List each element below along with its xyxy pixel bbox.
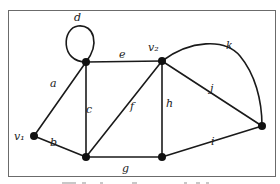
edge-label-j: j — [207, 82, 214, 95]
edge-label-h: h — [166, 97, 173, 110]
caption-cutoff — [62, 182, 209, 184]
edge-label-g: g — [122, 162, 129, 175]
vertex-v1 — [30, 132, 38, 140]
vertex-right — [258, 122, 266, 130]
graph-diagram: v₁ v₂ a b c d e f g h i j k — [0, 0, 280, 184]
edge-label-i: i — [211, 135, 215, 148]
vertex-bottom-middle — [158, 153, 166, 161]
vertex-label-v2: v₂ — [148, 41, 159, 54]
diagram-frame — [9, 11, 276, 177]
vertex-label-v1: v₁ — [14, 130, 25, 143]
edge-label-d: d — [74, 11, 81, 24]
edge-a — [34, 62, 86, 136]
edge-e — [86, 61, 162, 62]
edge-b — [34, 136, 86, 157]
edge-label-a: a — [50, 77, 57, 90]
labels: v₁ v₂ a b c d e f g h i j k — [14, 11, 233, 175]
vertex-top-left — [82, 58, 90, 66]
edge-label-c: c — [86, 103, 92, 116]
edge-d-loop — [66, 26, 94, 62]
edge-f — [86, 61, 162, 157]
vertex-bottom-left — [82, 153, 90, 161]
edge-label-b: b — [50, 136, 57, 149]
edge-label-k: k — [226, 39, 233, 52]
edge-label-e: e — [119, 48, 126, 61]
edge-label-f: f — [129, 100, 136, 113]
vertices — [30, 57, 266, 161]
vertex-v2 — [158, 57, 166, 65]
